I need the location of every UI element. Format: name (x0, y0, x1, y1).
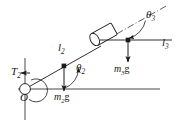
label-angle-theta3: θ3 (146, 9, 155, 23)
physics-free-body-diagram: T2 O l2 θ2 m2g θ3 l3 m3g (0, 0, 180, 135)
angle-arc-theta3 (129, 21, 145, 39)
torque-curved-arrow (29, 79, 47, 102)
label-link3-length: l3 (162, 37, 169, 51)
label-weight-m3g: m3g (114, 64, 130, 77)
label-torque-T2: T2 (11, 66, 21, 80)
label-origin-O: O (20, 92, 28, 103)
label-angle-theta2: θ2 (76, 62, 85, 76)
joint-block (88, 23, 118, 48)
label-weight-m2g: m2g (54, 92, 70, 105)
label-link2-length: l2 (58, 42, 65, 56)
